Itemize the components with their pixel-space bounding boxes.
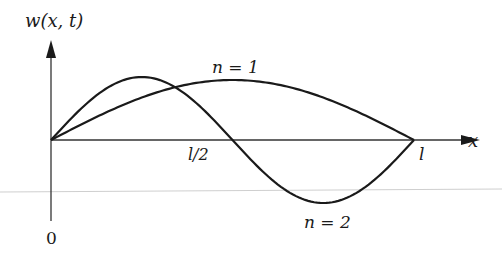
x-axis (51, 135, 480, 145)
artifact-line (0, 189, 502, 192)
y-axis-arrow-icon (46, 40, 56, 58)
x-axis-label: x (468, 130, 478, 151)
mode-1-label: n = 1 (212, 57, 259, 77)
tick-label-half: l/2 (188, 145, 209, 164)
tick-label-end: l (419, 144, 424, 164)
mode-2-label: n = 2 (304, 212, 351, 232)
mode-1-label-text: n = 1 (212, 57, 259, 77)
y-axis (46, 40, 56, 221)
y-axis-label: w(x, t) (25, 10, 83, 31)
mode-2-label-text: n = 2 (304, 212, 351, 232)
mode-shape-diagram: w(x, t) x 0 l/2 l n = 1 n = 2 (0, 0, 502, 261)
origin-label: 0 (46, 228, 57, 248)
